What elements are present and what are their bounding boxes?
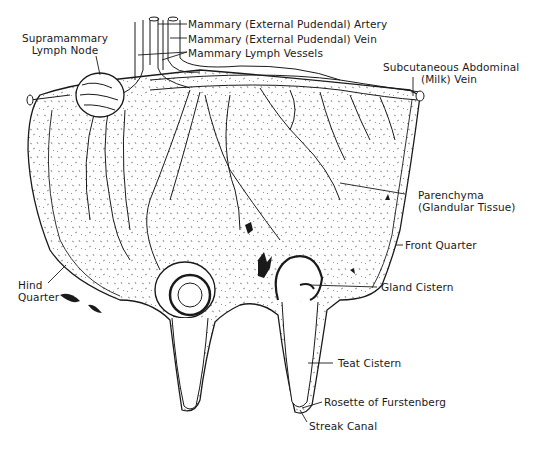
label-line: Lymph Node	[22, 44, 108, 56]
label-artery: Mammary (External Pudendal) Artery	[188, 18, 387, 30]
front-gland-cistern	[276, 256, 322, 300]
hind-teat	[172, 318, 208, 409]
label-streak-canal: Streak Canal	[309, 420, 377, 432]
label-line: (Glandular Tissue)	[418, 201, 516, 213]
label-vein: Mammary (External Pudendal) Vein	[188, 33, 377, 45]
label-gland-cistern: Gland Cistern	[381, 281, 454, 293]
label-rosette: Rosette of Furstenberg	[324, 396, 446, 408]
label-parenchyma: Parenchyma (Glandular Tissue)	[418, 189, 516, 213]
label-supramammary-lymph-node: Supramammary Lymph Node	[22, 32, 108, 56]
label-front-quarter: Front Quarter	[405, 239, 477, 251]
label-line: Hind	[18, 279, 59, 291]
label-line: Parenchyma	[418, 189, 516, 201]
hind-gland-cistern	[155, 262, 215, 318]
label-line: (Milk) Vein	[383, 73, 519, 85]
label-teat-cistern: Teat Cistern	[338, 357, 401, 369]
label-line: Quarter	[18, 291, 59, 303]
label-line: Supramammary	[22, 32, 108, 44]
label-milk-vein: Subcutaneous Abdominal (Milk) Vein	[383, 61, 519, 85]
label-hind-quarter: Hind Quarter	[18, 279, 59, 303]
supramammary-lymph-node	[76, 73, 124, 117]
label-line: Subcutaneous Abdominal	[383, 61, 519, 73]
label-lymph-vessels: Mammary Lymph Vessels	[188, 47, 323, 59]
